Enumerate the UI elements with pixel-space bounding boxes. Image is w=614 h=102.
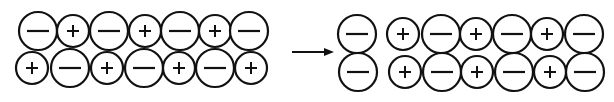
anion <box>196 49 234 87</box>
anion <box>90 12 128 50</box>
anion <box>423 53 461 91</box>
cation <box>389 56 421 88</box>
anion <box>339 53 377 91</box>
right-arrangement <box>338 15 604 91</box>
cation <box>461 56 493 88</box>
arrow-icon <box>292 48 334 56</box>
anion <box>495 53 533 91</box>
anion <box>125 49 163 87</box>
cation <box>91 52 123 84</box>
anion <box>19 12 57 50</box>
anion <box>565 15 603 53</box>
cation <box>199 15 231 47</box>
left-arrangement <box>16 12 268 87</box>
anion <box>161 12 199 50</box>
anion <box>493 15 531 53</box>
cation <box>387 18 419 50</box>
cation <box>534 56 566 88</box>
anion <box>566 53 604 91</box>
cation <box>57 15 89 47</box>
cation <box>163 52 195 84</box>
cation <box>16 52 48 84</box>
anion <box>51 49 89 87</box>
anion <box>230 12 268 50</box>
anion <box>422 15 460 53</box>
ion-layer-diagram <box>0 0 614 102</box>
cation <box>531 18 563 50</box>
anion <box>338 15 376 53</box>
cation <box>235 52 267 84</box>
cation <box>460 18 492 50</box>
cation <box>129 15 161 47</box>
